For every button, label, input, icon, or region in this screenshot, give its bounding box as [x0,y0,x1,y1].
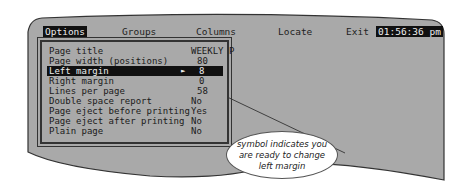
menu-exit[interactable]: Exit [346,26,369,37]
pointer-triangle-icon: ► [181,66,185,76]
option-eject-after[interactable]: Page eject after printing No [47,116,223,126]
callout-bubble: symbol indicates you are ready to change… [226,131,338,179]
option-left-margin[interactable]: Left margin ► 8 [47,66,223,76]
menu-groups[interactable]: Groups [122,26,156,37]
menu-locate[interactable]: Locate [278,26,312,37]
clock: 01:56:36 pm [376,26,443,37]
menu-bar: Options Groups Columns Locate Exit 01:56… [0,24,467,38]
menu-options[interactable]: Options [43,26,87,37]
option-right-margin[interactable]: Right margin 0 [47,76,223,86]
option-page-width[interactable]: Page width (positions) 80 [47,56,223,66]
option-eject-before[interactable]: Page eject before printing Yes [47,106,223,116]
menu-columns[interactable]: Columns [196,26,236,37]
option-double-space[interactable]: Double space report No [47,96,223,106]
options-menu: Page title WEEKLY P Page width (position… [40,40,229,144]
option-plain-page[interactable]: Plain page No [47,126,223,136]
option-page-title[interactable]: Page title WEEKLY P [47,46,223,56]
option-lines-per-page[interactable]: Lines per page 58 [47,86,223,96]
